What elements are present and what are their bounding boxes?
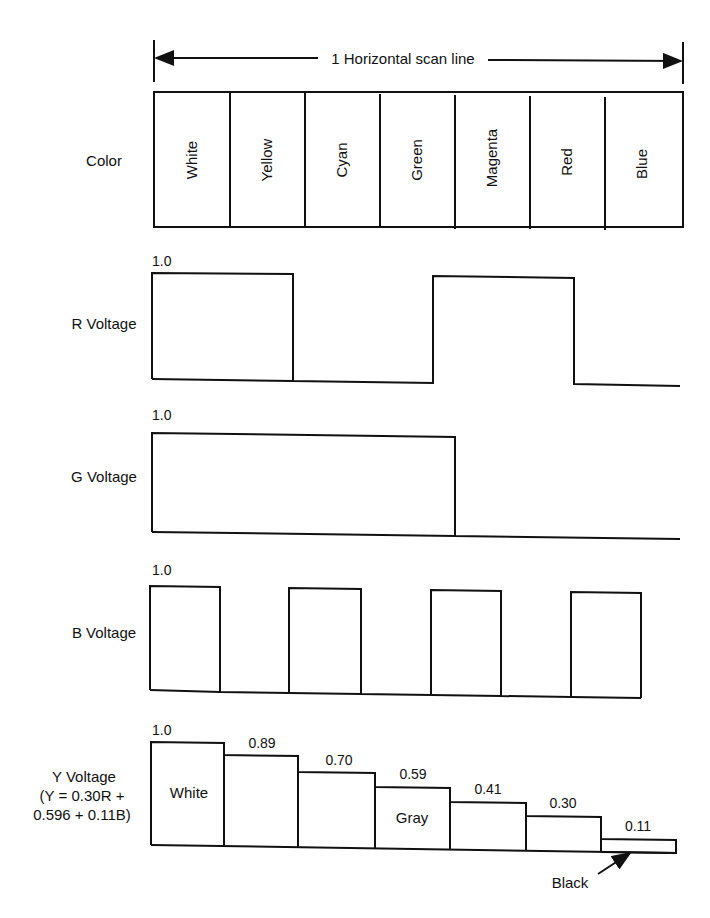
y-level-green: 0.59 <box>399 766 426 782</box>
r-voltage-label: R Voltage <box>71 315 136 332</box>
color-bar-cyan: Cyan <box>333 142 350 177</box>
color-row-label: Color <box>86 152 122 169</box>
scan-line-label: 1 Horizontal scan line <box>331 50 474 67</box>
color-bar-green: Green <box>408 139 425 181</box>
y-formula-line1: (Y = 0.30R + <box>40 787 125 804</box>
y-level-magenta: 0.41 <box>474 781 501 797</box>
g-voltage-waveform <box>152 433 680 539</box>
y-level-yellow: 0.89 <box>248 735 275 751</box>
b-peak-label: 1.0 <box>152 562 172 578</box>
color-bar-yellow: Yellow <box>258 138 275 181</box>
g-voltage-label: G Voltage <box>71 468 137 485</box>
color-bar-red: Red <box>558 148 575 176</box>
color-bar-diagram: 1 Horizontal scan line Color White Yello… <box>0 0 710 918</box>
color-bar-magenta: Magenta <box>483 128 500 187</box>
g-peak-label: 1.0 <box>152 407 172 423</box>
y-level-cyan: 0.70 <box>325 752 352 768</box>
annotation-black: Black <box>552 874 589 891</box>
r-voltage-waveform <box>152 273 680 386</box>
b-voltage-label: B Voltage <box>72 624 136 641</box>
y-level-red: 0.30 <box>549 795 576 811</box>
y-voltage-staircase <box>151 742 676 853</box>
b-voltage-waveform <box>150 586 641 698</box>
color-bar-white: White <box>183 141 200 179</box>
color-bar-blue: Blue <box>633 149 650 179</box>
y-level-white: 1.0 <box>152 722 172 738</box>
r-peak-label: 1.0 <box>152 253 172 269</box>
black-pointer-arrow-icon <box>598 853 630 874</box>
y-formula-line2: 0.596 + 0.11B) <box>33 806 131 823</box>
y-level-blue: 0.11 <box>625 818 651 834</box>
annotation-white: White <box>170 784 208 801</box>
annotation-gray: Gray <box>396 809 429 826</box>
y-voltage-label: Y Voltage <box>52 768 116 785</box>
